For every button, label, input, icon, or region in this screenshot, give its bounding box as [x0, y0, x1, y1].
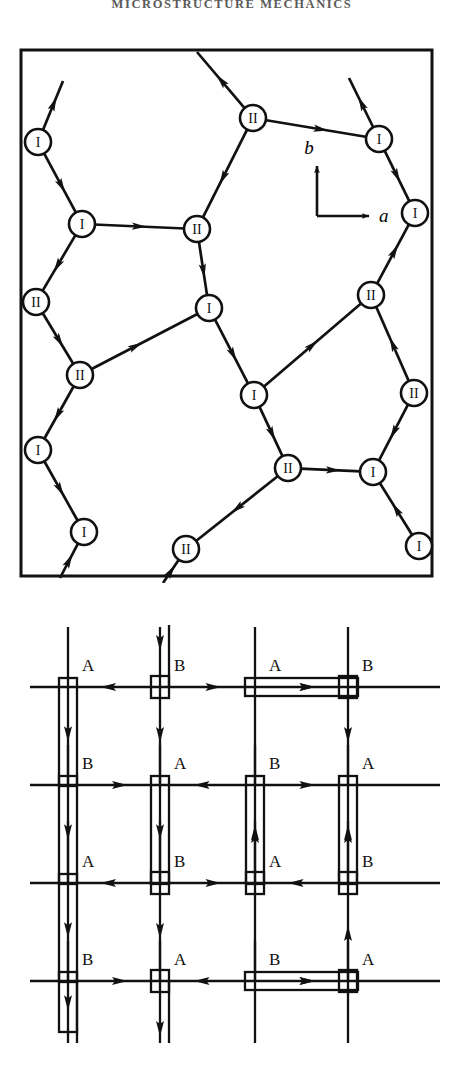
edge-direction-arrow: [128, 340, 144, 353]
network-node: II: [173, 536, 199, 562]
node-label: II: [409, 386, 419, 401]
node-label: I: [82, 525, 87, 540]
edge-direction-arrow: [266, 426, 279, 442]
network-node: II: [401, 380, 427, 406]
node-label: I: [413, 206, 418, 221]
node-label: I: [371, 465, 376, 480]
edge-direction-arrow: [355, 95, 368, 111]
network-node: II: [358, 282, 384, 308]
network-node: II: [67, 362, 93, 388]
network-edge: [202, 129, 247, 219]
network-node: II: [275, 455, 301, 481]
grid-cell-label: B: [269, 754, 280, 773]
grid-cell-label: A: [174, 754, 187, 773]
network-edge: [265, 120, 367, 137]
grid-cell-label: A: [362, 754, 375, 773]
grid-cell-label: B: [269, 950, 280, 969]
edge-direction-arrow: [216, 170, 229, 186]
node-label: II: [181, 542, 191, 557]
hexagonal-network-svg: b a IIIIIIIIIIIIIIIIIIIIIIIIII: [0, 38, 464, 583]
edge-direction-arrow: [63, 552, 76, 568]
network-node: II: [240, 105, 266, 131]
node-label: I: [207, 301, 212, 316]
node-label: II: [31, 295, 41, 310]
edge-direction-arrow: [388, 243, 401, 259]
node-label: I: [252, 388, 257, 403]
network-node: I: [69, 211, 95, 237]
node-label: I: [36, 443, 41, 458]
grid-cell-label: B: [174, 656, 185, 675]
network-node: II: [184, 216, 210, 242]
node-label: II: [75, 368, 85, 383]
node-label: I: [36, 135, 41, 150]
running-head: MICROSTRUCTURE MECHANICS: [0, 0, 464, 11]
panel-hexagonal-network: b a IIIIIIIIIIIIIIIIIIIIIIIIII: [0, 38, 464, 583]
network-node: I: [360, 459, 386, 485]
grid-cell-label: A: [82, 852, 95, 871]
edge-direction-arrow: [48, 96, 60, 112]
network-node: I: [25, 129, 51, 155]
edge-direction-arrow: [386, 336, 398, 352]
grid-cell-label: B: [82, 950, 93, 969]
node-label: II: [248, 111, 258, 126]
grid-cell-label: B: [362, 852, 373, 871]
network-node: I: [25, 437, 51, 463]
grid-cell-label: B: [174, 852, 185, 871]
grid-cell-label: B: [82, 754, 93, 773]
grid-cell-label: A: [82, 656, 95, 675]
edge-direction-arrow: [387, 424, 400, 440]
grid-cell-label: A: [269, 852, 282, 871]
node-label: II: [366, 288, 376, 303]
grid-dislocation-boxes: [59, 676, 358, 1037]
network-node: I: [406, 533, 432, 559]
edge-direction-arrow: [55, 178, 68, 194]
node-label: I: [377, 132, 382, 147]
node-label: I: [417, 539, 422, 554]
axis-b-label: b: [304, 137, 314, 158]
grid-labels: ABABBABAABABBABA: [82, 656, 375, 969]
axis-a-label: a: [379, 205, 389, 226]
rectangular-grid-svg: ABABBABAABABBABA: [0, 595, 464, 1069]
node-label: II: [192, 222, 202, 237]
node-label: I: [80, 217, 85, 232]
edge-direction-arrow: [390, 168, 403, 184]
network-node: I: [196, 295, 222, 321]
network-node: I: [366, 126, 392, 152]
network-edge: [91, 314, 199, 370]
grid-cell-label: B: [362, 656, 373, 675]
grid-cell-label: A: [269, 656, 282, 675]
network-node: II: [23, 289, 49, 315]
grid-lines: [30, 625, 440, 1043]
node-label: II: [283, 461, 293, 476]
network-edges: [42, 52, 413, 583]
grid-cell-label: A: [174, 950, 187, 969]
panel-rectangular-grid: ABABBABAABABBABA: [0, 595, 464, 1069]
grid-cell-label: A: [362, 950, 375, 969]
edge-direction-arrow: [227, 346, 240, 362]
network-node: I: [241, 382, 267, 408]
network-node: I: [71, 519, 97, 545]
network-node: I: [402, 200, 428, 226]
